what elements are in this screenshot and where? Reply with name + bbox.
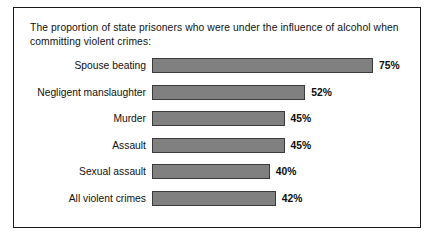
bar-row: Sexual assault40% [14,164,420,179]
chart-figure: The proportion of state prisoners who we… [13,7,421,228]
bar-value-label: 75% [379,58,400,73]
bar-row: All violent crimes42% [14,191,420,206]
bar-row: Negligent manslaughter52% [14,85,420,100]
bar-track: 52% [152,85,420,100]
bar-value-label: 42% [282,191,303,206]
bar [152,85,305,100]
bar-value-label: 45% [291,138,312,153]
bar-track: 45% [152,111,420,126]
bar [152,164,270,179]
bar [152,111,285,126]
bar-value-label: 40% [276,164,297,179]
bar-category-label: Murder [113,111,146,126]
bar-value-label: 52% [311,85,332,100]
bar-row: Murder45% [14,111,420,126]
bar-row: Spouse beating75% [14,58,420,73]
bar [152,138,285,153]
bar-value-label: 45% [291,111,312,126]
bar-category-label: Negligent manslaughter [37,85,146,100]
bar-category-label: Assault [112,138,146,153]
bar-track: 40% [152,164,420,179]
bar-track: 75% [152,58,420,73]
bar-chart: Spouse beating75%Negligent manslaughter5… [14,58,420,218]
bar-track: 42% [152,191,420,206]
bar [152,58,373,73]
chart-caption: The proportion of state prisoners who we… [30,21,408,49]
bar-category-label: All violent crimes [69,191,146,206]
bar-category-label: Sexual assault [79,164,146,179]
bar-category-label: Spouse beating [74,58,146,73]
bar [152,191,276,206]
bar-track: 45% [152,138,420,153]
bar-row: Assault45% [14,138,420,153]
